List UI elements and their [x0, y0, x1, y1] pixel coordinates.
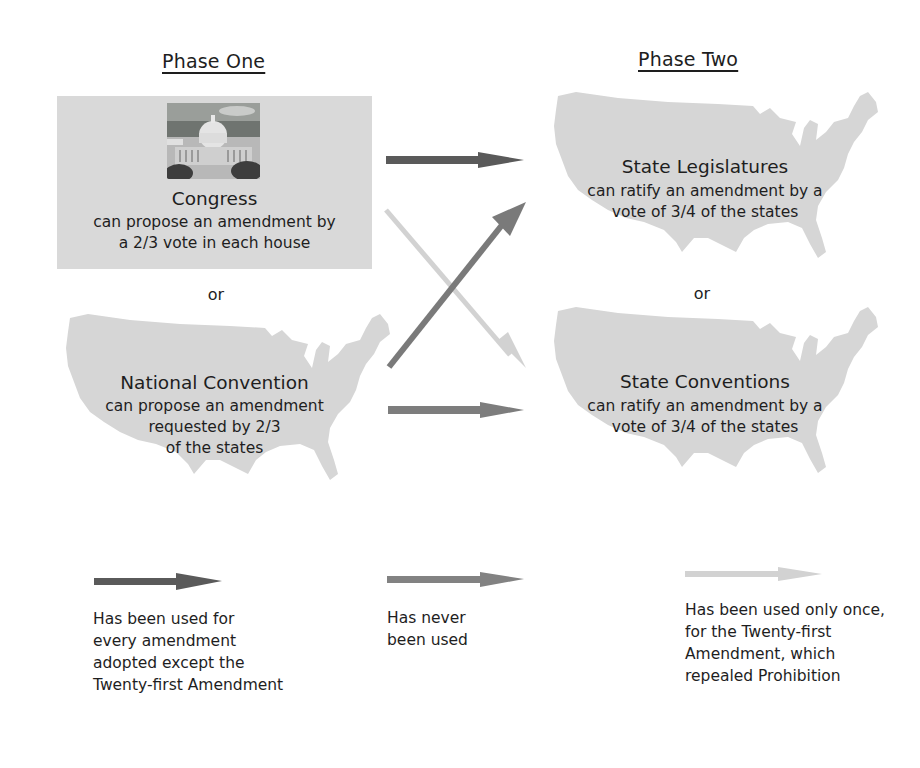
phase-two-title: Phase Two [638, 48, 738, 70]
national-convention-description-line-3: of the states [57, 438, 372, 459]
legend-dark-line-4: Twenty-first Amendment [93, 674, 283, 696]
state-conventions-description-line-1: can ratify an amendment by a [545, 396, 865, 417]
legend-medium-line-1: Has never [387, 607, 468, 629]
state-legislatures-description-line-1: can ratify an amendment by a [545, 181, 865, 202]
congress-description-line-1: can propose an amendment by [57, 212, 372, 233]
legend-arrow-light [685, 567, 822, 581]
state-conventions-description: can ratify an amendment by a vote of 3/4… [545, 396, 865, 438]
legend-light-line-2: for the Twenty-first [685, 621, 885, 643]
legend-text-dark: Has been used for every amendment adopte… [93, 608, 283, 696]
national-convention-title: National Convention [57, 372, 372, 393]
capitol-icon [167, 103, 260, 179]
or-label-phase-one: or [186, 285, 246, 304]
capitol-building-image [167, 103, 260, 179]
legend-light-line-1: Has been used only once, [685, 599, 885, 621]
state-conventions-description-line-2: vote of 3/4 of the states [545, 417, 865, 438]
congress-title: Congress [57, 188, 372, 209]
or-label-phase-two: or [672, 284, 732, 303]
legend-text-medium: Has never been used [387, 607, 468, 651]
state-conventions-title: State Conventions [545, 371, 865, 392]
legend-dark-line-1: Has been used for [93, 608, 283, 630]
legend-arrow-dark [94, 573, 222, 590]
national-convention-description-line-2: requested by 2/3 [57, 417, 372, 438]
national-convention-description-line-1: can propose an amendment [57, 396, 372, 417]
legend-arrow-medium [387, 572, 524, 587]
state-legislatures-description: can ratify an amendment by a vote of 3/4… [545, 181, 865, 223]
congress-description: can propose an amendment by a 2/3 vote i… [57, 212, 372, 254]
legend-light-line-4: repealed Prohibition [685, 665, 885, 687]
state-legislatures-title: State Legislatures [545, 156, 865, 177]
arrow-congress-to-state-legislatures [386, 152, 524, 168]
legend-medium-line-2: been used [387, 629, 468, 651]
state-legislatures-description-line-2: vote of 3/4 of the states [545, 202, 865, 223]
national-convention-description: can propose an amendment requested by 2/… [57, 396, 372, 459]
legend-text-light: Has been used only once, for the Twenty-… [685, 599, 885, 687]
congress-description-line-2: a 2/3 vote in each house [57, 233, 372, 254]
phase-one-title: Phase One [162, 50, 265, 72]
legend-dark-line-2: every amendment [93, 630, 283, 652]
arrow-national-convention-to-state-conventions [388, 402, 524, 418]
legend-dark-line-3: adopted except the [93, 652, 283, 674]
legend-light-line-3: Amendment, which [685, 643, 885, 665]
